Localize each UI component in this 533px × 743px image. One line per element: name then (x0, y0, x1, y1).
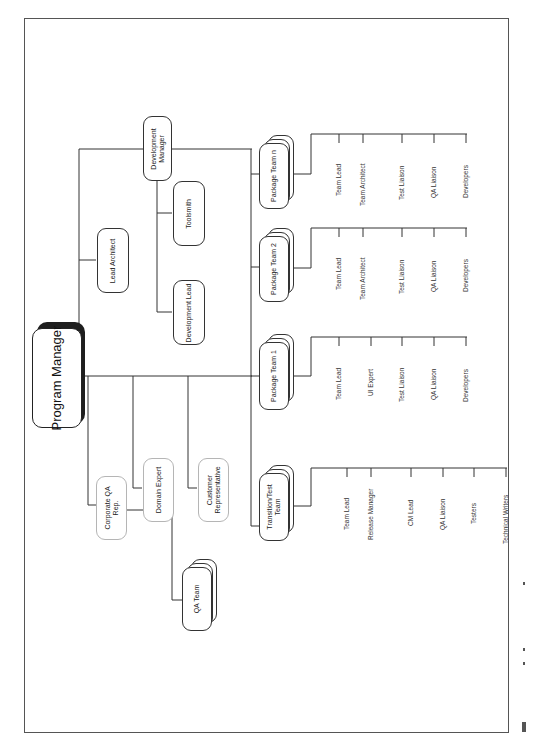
caption-fragment (522, 722, 526, 732)
role-label: Team Lead (335, 258, 342, 290)
role-label: Team Lead (343, 498, 350, 530)
toolsmith-box: Toolsmith (173, 181, 205, 246)
development-manager-box: Development Manager (143, 116, 172, 181)
qa-team-label: QA Team (193, 585, 201, 614)
role-label: QA Liaison (430, 261, 437, 292)
role-label: Technical Writers (502, 495, 509, 544)
qa-team-box: QA Team (182, 567, 212, 631)
transition-test-team-label: Transition/Test Team (266, 484, 282, 529)
lead-architect-label: Lead Architect (109, 238, 117, 282)
caption-fragment (523, 648, 525, 651)
domain-expert-label: Domain Expert (155, 467, 163, 513)
role-label: Release Manager (367, 489, 374, 540)
package-team-1-box: Package Team 1 (259, 342, 289, 410)
role-label: QA Liaison (430, 369, 437, 400)
role-label: Developers (462, 369, 469, 402)
program-manager-box: Program Manager (32, 328, 82, 428)
role-label: Team Lead (335, 368, 342, 400)
role-label: Developers (462, 259, 469, 292)
role-label: Test Liaison (398, 166, 405, 200)
org-chart-figure: Program Manager Development Manager Lead… (0, 0, 533, 743)
toolsmith-label: Toolsmith (185, 199, 193, 229)
role-label: UI Expert (367, 369, 374, 396)
role-label: Test Liaison (398, 260, 405, 294)
transition-test-team-box: Transition/Test Team (259, 473, 289, 541)
corporate-qa-rep-label: Corporate QA Rep. (104, 486, 120, 529)
role-label: Team Lead (335, 164, 342, 196)
role-label: QA Liaison (430, 167, 437, 198)
role-label: Developers (462, 165, 469, 198)
package-team-2-label: Package Team 2 (270, 243, 278, 295)
customer-representative-label: Customer Representative (206, 466, 222, 513)
development-lead-box: Development Lead (173, 280, 205, 345)
corporate-qa-rep-box: Corporate QA Rep. (96, 476, 127, 540)
role-label: Team Architect (359, 163, 366, 206)
caption-fragment (523, 582, 525, 585)
role-label: Team Architect (359, 257, 366, 300)
package-team-2-box: Package Team 2 (259, 236, 289, 302)
customer-representative-box: Customer Representative (198, 458, 229, 522)
role-label: QA Liaison (439, 499, 446, 530)
package-team-n-box: Package Team n (259, 143, 289, 209)
role-label: Test Liaison (398, 368, 405, 402)
domain-expert-box: Domain Expert (143, 458, 174, 522)
package-team-n-label: Package Team n (270, 150, 278, 202)
development-lead-label: Development Lead (185, 283, 193, 342)
lead-architect-box: Lead Architect (97, 228, 129, 293)
program-manager-label: Program Manager (50, 326, 64, 431)
role-label: CM Lead (407, 500, 414, 526)
role-label: Testers (470, 503, 477, 524)
development-manager-label: Development Manager (150, 128, 166, 169)
caption-fragment (523, 662, 525, 665)
package-team-1-label: Package Team 1 (270, 350, 278, 402)
